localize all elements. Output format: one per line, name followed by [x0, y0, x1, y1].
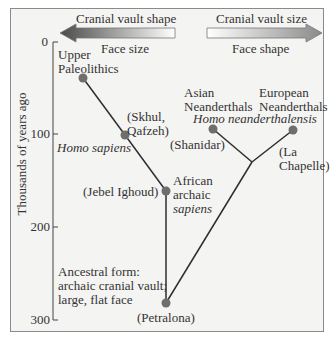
axis-label: Thousands of years ago: [15, 92, 29, 215]
label-asian-neanderthals: Asian Neanderthals: [184, 86, 253, 114]
tick-0: 0: [30, 35, 48, 49]
label-petralona: (Petralona): [137, 311, 195, 325]
right-arrow-label-bottom: Face shape: [232, 42, 289, 56]
label-line: Upper: [58, 48, 119, 62]
node-la-chapelle: [289, 126, 298, 135]
label-line: Ancestral form:: [58, 265, 167, 279]
label-line: sapiens: [173, 202, 213, 216]
label-line: archaic: [173, 188, 213, 202]
right-arrow-label-top: Cranial vault size: [216, 12, 307, 26]
label-skhul-qafzeh: (Skhul, Qafzeh): [127, 110, 169, 138]
label-line: European: [259, 86, 328, 100]
label-homo-neanderthalensis: Homo neanderthalensis: [193, 112, 317, 126]
left-arrow-label-top: Cranial vault shape: [76, 12, 176, 26]
left-arrow-icon: [60, 24, 175, 42]
tick-300: 300: [24, 313, 50, 327]
label-line: Paleolithics: [58, 62, 119, 76]
node-jebel-ighoud: [162, 187, 171, 196]
label-line: (La: [279, 145, 330, 159]
right-arrow-icon: [207, 24, 322, 42]
label-jebel-ighoud: (Jebel Ighoud): [83, 185, 158, 199]
label-line: Asian: [184, 86, 253, 100]
label-homo-sapiens: Homo sapiens: [57, 141, 131, 155]
label-african-archaic-sapiens: African archaic sapiens: [173, 174, 213, 216]
label-ancestral-form: Ancestral form: archaic cranial vault; l…: [58, 265, 167, 307]
label-line: large, flat face: [58, 293, 167, 307]
label-upper-paleolithics: Upper Paleolithics: [58, 48, 119, 76]
label-line: (Skhul,: [127, 110, 169, 124]
label-shanidar: (Shanidar): [170, 138, 225, 152]
tick-200: 200: [24, 220, 50, 234]
label-european-neanderthals: European Neanderthals: [259, 86, 328, 114]
label-line: Chapelle): [279, 159, 330, 173]
label-la-chapelle: (La Chapelle): [279, 145, 330, 173]
label-line: archaic cranial vault;: [58, 279, 167, 293]
label-line: Qafzeh): [127, 124, 169, 138]
label-line: African: [173, 174, 213, 188]
